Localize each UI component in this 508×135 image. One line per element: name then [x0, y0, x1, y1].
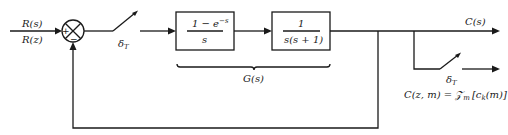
- sampler-2-label: δT: [446, 74, 458, 87]
- g-label: G(s): [243, 73, 264, 84]
- modified-z-transform-expression: C(z, m) = 𝒵m[ck(m)]: [404, 89, 507, 102]
- plant-input-arrow: [264, 28, 272, 35]
- zoh-denominator: s: [202, 34, 207, 45]
- output-label: C(s): [465, 16, 486, 27]
- sampled-output-arrow: [492, 66, 500, 73]
- branch-line: [414, 31, 440, 69]
- sampler-2-switch: [440, 53, 461, 70]
- plus-sign: +: [62, 26, 70, 36]
- block-diagram: R(s) R(z) + − δT 1 − e−s s 1 s(s + 1) G(…: [0, 0, 508, 135]
- minus-sign: −: [70, 34, 78, 44]
- input-arrow: [55, 28, 62, 35]
- input-label-rs: R(s): [21, 18, 43, 29]
- input-label-rz: R(z): [21, 34, 43, 45]
- sampler-1-label: δT: [118, 38, 130, 51]
- sampler-1-switch: [113, 11, 138, 32]
- plant-denominator: s(s + 1): [284, 34, 323, 45]
- plant-numerator: 1: [298, 18, 304, 29]
- zoh-input-arrow: [168, 28, 176, 35]
- g-brace: [177, 64, 330, 70]
- output-arrow: [492, 28, 500, 35]
